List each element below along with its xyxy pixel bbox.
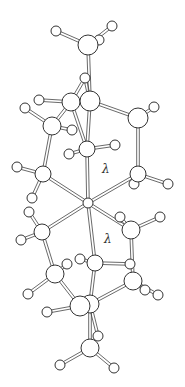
hydrogen-atom — [110, 140, 120, 150]
hydrogen-atom — [24, 207, 34, 217]
hydrogen-atom — [20, 103, 30, 113]
carbon-atom — [81, 339, 99, 357]
hydrogen-atom — [115, 212, 125, 222]
hydrogen-atom — [42, 307, 52, 317]
lambda-label-lower: λ — [104, 232, 112, 246]
hydrogen-atom — [93, 331, 103, 341]
molecule-svg — [0, 0, 185, 387]
hydrogen-atom — [163, 179, 173, 189]
molecule-diagram: λ λ — [0, 0, 185, 387]
lambda-label-upper: λ — [102, 162, 110, 176]
carbon-atom — [35, 166, 51, 182]
carbon-atom — [78, 35, 98, 55]
carbon-atom — [128, 108, 148, 128]
carbon-atom — [70, 296, 90, 316]
carbon-atom — [80, 91, 100, 111]
hydrogen-atom — [55, 360, 65, 370]
hydrogen-atom — [140, 285, 150, 295]
hydrogen-atom — [64, 149, 74, 159]
center-metal-atom — [83, 198, 93, 208]
carbon-atom — [79, 141, 95, 157]
hydrogen-atom — [23, 289, 33, 299]
carbon-atom — [124, 272, 142, 290]
hydrogen-atom — [16, 235, 26, 245]
carbon-atom — [62, 93, 80, 111]
hydrogen-atom — [34, 95, 44, 105]
carbon-atom — [34, 224, 50, 240]
hydrogen-atom — [67, 125, 77, 135]
hydrogen-atom — [153, 290, 163, 300]
carbon-atom — [130, 166, 146, 182]
hydrogen-atom — [12, 162, 22, 172]
hydrogen-atom — [149, 102, 159, 112]
hydrogen-atom — [125, 259, 135, 269]
carbon-atom — [43, 117, 61, 135]
hydrogen-atom — [109, 363, 119, 373]
hydrogen-atom — [51, 26, 61, 36]
hydrogen-atom — [155, 212, 165, 222]
carbon-atom — [122, 221, 140, 239]
hydrogen-atom — [107, 21, 117, 31]
carbon-atom — [46, 265, 64, 283]
hydrogen-atom — [75, 254, 85, 264]
hydrogen-atom — [80, 73, 90, 83]
hydrogen-atom — [62, 259, 72, 269]
carbon-atom — [87, 255, 103, 271]
bonds — [17, 25, 169, 369]
hydrogen-atom — [27, 193, 37, 203]
